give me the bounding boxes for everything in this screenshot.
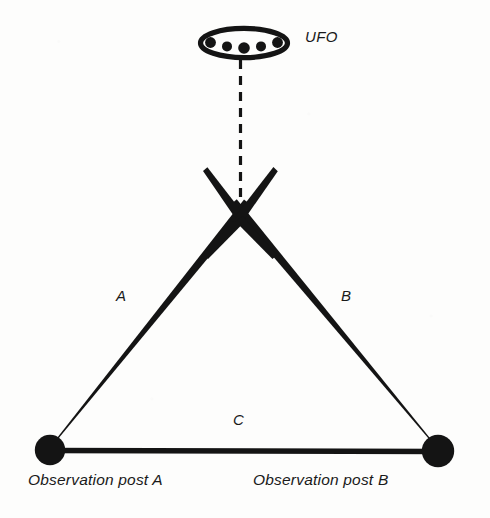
observation-post-b-marker	[422, 435, 454, 467]
diagram-canvas	[0, 0, 490, 518]
observation-post-a-label: Observation post A	[28, 472, 163, 488]
baseline-c-line	[50, 451, 438, 452]
ufo-label: UFO	[305, 29, 338, 44]
sight-line-b-stroke	[230, 199, 439, 448]
cross-arm-lower-right	[236, 216, 278, 259]
side-c-label: C	[233, 412, 244, 427]
side-a-label: A	[116, 288, 126, 303]
ufo-light-5-icon	[272, 37, 283, 48]
observation-post-a-marker	[35, 435, 65, 465]
ufo-triangulation-figure: UFO A B C Observation post A Observation…	[0, 0, 490, 518]
observation-post-b-label: Observation post B	[253, 472, 388, 488]
ufo-light-4-icon	[256, 41, 266, 51]
side-b-label: B	[341, 288, 351, 303]
ufo-light-1-icon	[205, 37, 216, 48]
ufo-light-3-icon	[238, 42, 250, 54]
ufo-light-2-icon	[222, 41, 232, 51]
